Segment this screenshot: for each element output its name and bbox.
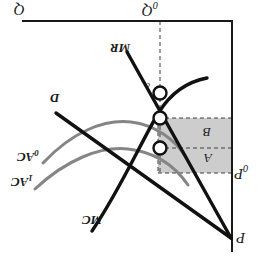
point-lower-marker (154, 142, 167, 155)
area-b-label: B (203, 126, 211, 139)
average-cost-0-subscript: 0 (34, 148, 38, 158)
point-c-marker (154, 87, 167, 100)
average-cost-1-letters: AC (11, 175, 28, 190)
area-a-label: A (204, 152, 212, 165)
point-c-label: c (146, 81, 150, 90)
price-axis-label: P (236, 230, 245, 245)
economics-diagram-figure: Q 0Q P 0P MR D MC 0AC 1AC B A c (0, 0, 264, 266)
average-cost-0-label: 0AC (17, 148, 39, 164)
price-marker-subscript: 0 (243, 163, 248, 174)
marginal-revenue-label: MR (110, 42, 130, 55)
diagram-canvas (0, 0, 264, 266)
average-cost-1-label: 1AC (11, 173, 33, 189)
average-cost-0-letters: AC (17, 150, 34, 165)
marginal-cost-label: MC (82, 214, 102, 227)
quantity-marker-letter: Q (142, 3, 153, 19)
demand-label: D (50, 92, 59, 105)
area-a-rect (158, 148, 232, 173)
quantity-marker-label: 0Q (142, 0, 158, 18)
price-marker-label: 0P (234, 163, 248, 181)
quantity-marker-subscript: 0 (153, 0, 158, 11)
average-cost-1-subscript: 1 (28, 173, 32, 183)
area-b-rect (158, 118, 232, 148)
point-upper-marker (154, 112, 167, 125)
price-marker-letter: P (234, 166, 243, 182)
quantity-axis-label: Q (14, 2, 25, 17)
